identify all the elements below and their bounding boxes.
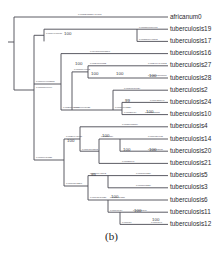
tip-label-tuberculosis14: tuberculosis14 [170,135,212,142]
branch-length-label: 0.000984 [122,221,132,224]
branch-length-label: 0.00190848297 [66,182,83,185]
phylogenetic-tree-figure: 0.07112733884414171 0.0008170954961 0.00… [0,0,223,257]
branch-length-label: 0.00199098425 [74,106,91,109]
branch-length-label: 0.0013908824 [136,184,151,187]
tip-label-tuberculosis5: tuberculosis5 [170,171,208,178]
bootstrap-value: 100 [149,73,157,78]
branch-length-label: 0.0008170954961 [139,26,158,29]
bootstrap-value: 100 [152,217,160,222]
branch-length-label: 0.00116178684 [122,123,139,126]
tip-label-tuberculosis19: tuberculosis19 [170,25,212,32]
branch-length-label: 0.0016100824 [136,172,151,175]
tip-labels: africanum0 tuberculosis19 tuberculosis17… [170,13,212,227]
tip-label-tuberculosis2: tuberculosis2 [170,86,208,93]
tip-label-africanum0: africanum0 [170,13,202,20]
tip-label-tuberculosis4: tuberculosis4 [170,122,208,129]
bootstrap-value: 100 [146,109,154,114]
branch-length-label: 0.00140984 [110,209,123,212]
tip-label-tuberculosis27: tuberculosis27 [170,61,212,68]
tip-label-tuberculosis12: tuberculosis12 [170,220,212,227]
clade-n2 [34,35,168,110]
tip-label-tuberculosis6: tuberculosis6 [170,196,208,203]
bootstrap-value: 100 [102,133,110,138]
tip-label-tuberculosis3: tuberculosis3 [170,183,208,190]
branch-length-label: 0.00104098224 [115,106,132,109]
tip-label-tuberculosis28: tuberculosis28 [170,74,212,81]
bootstrap-value: 100 [91,71,99,76]
branch-length-label: 0.00390019624 [124,87,141,90]
branch-length-label: 0.00000099999 [36,86,53,89]
bootstrap-value: 95 [91,172,96,177]
tip-label-tuberculosis11: tuberculosis11 [170,208,211,215]
branch-length-label: 0.0009384938 [148,135,163,138]
tip-label-tuberculosis16: tuberculosis16 [170,49,212,56]
branch-length-label: 0.00141098845 [82,148,99,151]
root-branch [8,17,14,90]
clade-4-14-20-21 [64,127,168,164]
branch-length-label: 0.0014211949 [150,99,165,102]
bootstrap-value: 100 [149,147,157,152]
branch-length-label: 0.00109984821 [36,156,53,159]
branch-length-label: 0.0009999968537 [36,80,55,83]
tip-label-tuberculosis17: tuberculosis17 [170,37,212,44]
branch-length-label: 0.07112733884414171 [78,13,102,16]
tip-label-tuberculosis20: tuberculosis20 [170,147,212,154]
bootstrap-value: 99 [125,98,130,103]
branch-length-label: 0.00120984 [124,111,137,114]
clade-n10 [34,139,64,186]
branch-length-label: 0.00121840 [122,160,135,163]
bootstrap-value: 100 [67,138,75,143]
tree-diagram: 0.07112733884414171 0.0008170954961 0.00… [0,0,223,257]
node-n1 [14,29,44,160]
bootstrap-value: 100 [64,31,72,36]
branch-length-label: 0.00194900937 [46,32,63,35]
bootstrap-value: 100 [111,194,119,199]
branch-length-label: 0.0024904146302 [148,62,167,65]
branch-length-label: 0.00240009832 [90,62,107,65]
branch-length-labels: 0.07112733884414171 0.0008170954961 0.00… [36,13,167,223]
tip-label-tuberculosis24: tuberculosis24 [170,98,212,105]
bootstrap-value: 100 [75,61,83,66]
bootstrap-value: 100 [123,147,131,152]
branch-length-label: 0.0011866440868 [139,38,158,41]
tip-label-tuberculosis21: tuberculosis21 [170,159,212,166]
figure-caption: (b) [0,230,223,242]
branch-length-label: 0.00148984023 [90,196,107,199]
branch-length-label: 0.00100999842 [74,68,91,71]
bootstrap-value: 100 [134,208,142,213]
tip-label-tuberculosis10: tuberculosis10 [170,110,212,117]
branch-length-label: 0.00410000098867 [90,50,111,53]
bootstrap-value: 100 [116,71,124,76]
